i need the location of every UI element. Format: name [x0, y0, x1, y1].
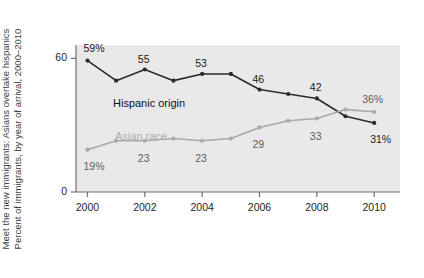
data-point — [372, 121, 376, 125]
point-value-label: 46 — [253, 73, 265, 85]
series-label-hispanic-origin: Hispanic origin — [113, 97, 185, 109]
point-value-label: 42 — [310, 81, 322, 93]
data-point — [171, 136, 175, 140]
data-point — [200, 139, 204, 143]
x-axis-tick-label: 2004 — [182, 201, 222, 213]
data-point — [85, 58, 89, 62]
data-point — [171, 79, 175, 83]
x-axis-tick-label: 2008 — [297, 201, 337, 213]
point-value-label: 55 — [138, 53, 150, 65]
data-point — [343, 114, 347, 118]
data-point — [315, 96, 319, 100]
point-value-label: 59% — [83, 42, 104, 54]
point-value-label: 23 — [138, 152, 150, 164]
point-value-label: 53 — [195, 57, 207, 69]
point-value-label: 29 — [253, 138, 265, 150]
data-point — [257, 125, 261, 129]
data-point — [200, 72, 204, 76]
data-point — [143, 67, 147, 71]
x-axis-tick-label: 2000 — [67, 201, 107, 213]
data-point — [372, 110, 376, 114]
data-point — [229, 72, 233, 76]
data-point — [85, 148, 89, 152]
series-label-asian-race: Asian race — [115, 130, 167, 142]
x-axis-tick-label: 2006 — [240, 201, 280, 213]
data-point — [315, 116, 319, 120]
data-point — [229, 136, 233, 140]
data-point — [257, 87, 261, 91]
data-point — [286, 119, 290, 123]
y-axis-tick-label: 60 — [41, 51, 67, 63]
point-value-label: 19% — [83, 160, 104, 172]
chart-canvas — [0, 0, 424, 278]
point-value-label: 31% — [370, 133, 391, 145]
data-point — [343, 107, 347, 111]
y-axis-tick-label: 0 — [41, 185, 67, 197]
chart-figure: Meet the new immigrants: Asians overtake… — [0, 0, 424, 278]
data-point — [286, 92, 290, 96]
x-axis-tick-label: 2002 — [125, 201, 165, 213]
point-value-label: 36% — [362, 93, 383, 105]
point-value-label: 33 — [310, 130, 322, 142]
x-axis-tick-label: 2010 — [354, 201, 394, 213]
point-value-label: 23 — [195, 152, 207, 164]
data-point — [114, 79, 118, 83]
